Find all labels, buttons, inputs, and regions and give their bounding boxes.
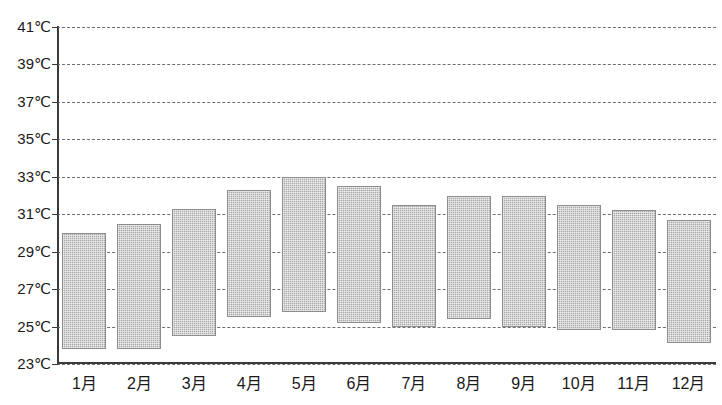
gridline-39 xyxy=(57,64,716,65)
gridline-35 xyxy=(57,139,716,140)
x-axis-tick-label: 4月 xyxy=(237,370,262,394)
bar-2月 xyxy=(117,224,161,349)
y-axis-tick-label: 35℃ xyxy=(4,130,51,148)
gridline-33 xyxy=(57,177,716,178)
bar-10月 xyxy=(557,205,601,330)
y-tick-37 xyxy=(52,102,58,103)
gridline-23 xyxy=(57,364,716,365)
y-axis-tick-label: 25℃ xyxy=(4,318,51,336)
bar-6月 xyxy=(337,186,381,323)
y-axis-tick-label: 39℃ xyxy=(4,55,51,73)
y-axis-tick-label: 23℃ xyxy=(4,355,51,373)
y-tick-29 xyxy=(52,252,58,253)
y-axis-tick-label: 31℃ xyxy=(4,205,51,223)
x-axis-tick-label: 6月 xyxy=(347,370,372,394)
x-axis-tick-label: 1月 xyxy=(72,370,97,394)
y-tick-33 xyxy=(52,177,58,178)
bar-4月 xyxy=(227,190,271,317)
y-tick-25 xyxy=(52,327,58,328)
x-axis-tick-label: 2月 xyxy=(127,370,152,394)
gridline-41 xyxy=(57,27,716,28)
bar-12月 xyxy=(667,220,711,344)
temperature-range-chart: 41℃39℃37℃35℃33℃31℃29℃27℃25℃23℃ 1月2月3月4月5… xyxy=(0,0,722,405)
bar-5月 xyxy=(282,177,326,312)
y-tick-31 xyxy=(52,214,58,215)
y-axis-tick-label: 33℃ xyxy=(4,168,51,186)
bar-8月 xyxy=(447,196,491,320)
y-axis-tick-label: 29℃ xyxy=(4,243,51,261)
y-axis-tick-label: 41℃ xyxy=(4,18,51,36)
x-axis-tick-label: 3月 xyxy=(182,370,207,394)
x-axis-tick-label: 11月 xyxy=(617,370,650,394)
y-tick-35 xyxy=(52,139,58,140)
plot-area xyxy=(57,27,716,364)
gridline-37 xyxy=(57,102,716,103)
x-axis-tick-label: 7月 xyxy=(402,370,427,394)
y-axis-tick-label: 37℃ xyxy=(4,93,51,111)
y-tick-39 xyxy=(52,64,58,65)
bar-7月 xyxy=(392,205,436,327)
x-axis-tick-label: 8月 xyxy=(456,370,481,394)
y-tick-23 xyxy=(52,364,58,365)
bar-9月 xyxy=(502,196,546,327)
x-axis-tick-label: 5月 xyxy=(292,370,317,394)
y-tick-27 xyxy=(52,289,58,290)
y-axis-tick-label: 27℃ xyxy=(4,280,51,298)
bar-1月 xyxy=(62,233,106,349)
x-axis-tick-label: 12月 xyxy=(672,370,706,394)
bar-11月 xyxy=(612,210,656,330)
y-tick-41 xyxy=(52,27,58,28)
x-axis-tick-label: 10月 xyxy=(562,370,596,394)
bar-3月 xyxy=(172,209,216,336)
x-axis-tick-label: 9月 xyxy=(511,370,536,394)
